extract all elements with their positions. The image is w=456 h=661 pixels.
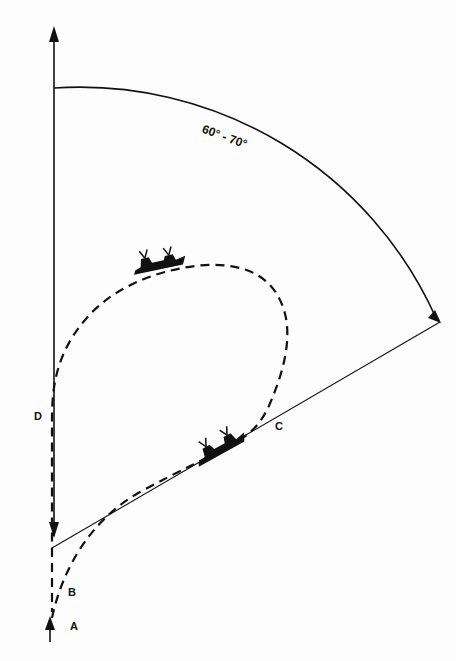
ship-track xyxy=(52,265,287,618)
arrow-up-icon xyxy=(45,616,55,630)
point-label-d: D xyxy=(34,410,42,422)
point-label-a: A xyxy=(70,620,78,632)
original-course-line xyxy=(49,26,59,538)
diagram-canvas: 60° - 70° D C B A xyxy=(0,0,456,661)
point-label-c: C xyxy=(275,420,283,432)
maneuver-diagram xyxy=(0,0,456,661)
arrow-head-icon xyxy=(428,310,441,323)
ship-icon xyxy=(188,420,248,466)
turn-angle-arc xyxy=(54,87,441,323)
arrow-down-icon xyxy=(49,522,59,538)
start-arrow xyxy=(45,616,55,642)
point-label-b: B xyxy=(68,586,76,598)
arrow-up-icon xyxy=(49,26,59,42)
